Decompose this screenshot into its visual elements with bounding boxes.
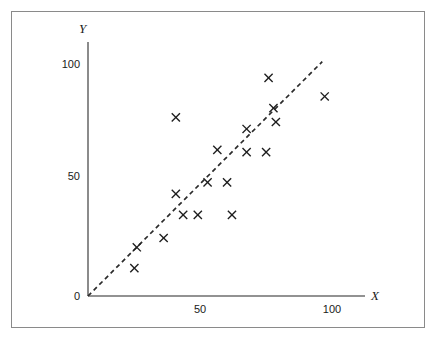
data-point-marker — [243, 148, 251, 156]
x-tick-label-50: 50 — [194, 303, 206, 315]
y-tick-label-50: 50 — [68, 170, 80, 182]
data-point-marker — [264, 74, 272, 82]
data-point-marker — [133, 243, 141, 251]
data-point-marker — [172, 190, 180, 198]
data-point-marker — [262, 148, 270, 156]
data-point-marker — [130, 264, 138, 272]
x-axis-title: X — [370, 288, 380, 303]
scatter-plot-screenshot: Y X 100 50 0 50 100 — [0, 0, 436, 342]
scatter-plot-canvas: Y X 100 50 0 50 100 — [0, 0, 436, 342]
data-point-marker — [172, 113, 180, 121]
y-tick-label-100: 100 — [62, 58, 80, 70]
data-point-marker — [160, 234, 168, 242]
y-axis-title: Y — [79, 21, 88, 36]
data-point-marker — [203, 178, 211, 186]
x-tick-label-100: 100 — [323, 303, 341, 315]
data-point-marker — [179, 211, 187, 219]
data-point-marker — [213, 146, 221, 154]
data-point-marker — [228, 211, 236, 219]
data-point-marker — [272, 118, 280, 126]
data-point-marker — [223, 178, 231, 186]
data-point-marker — [194, 211, 202, 219]
data-point-marker — [243, 125, 251, 133]
identity-reference-line — [88, 62, 322, 296]
data-point-layer — [130, 74, 329, 272]
origin-tick-label: 0 — [74, 290, 80, 302]
data-point-marker — [321, 92, 329, 100]
